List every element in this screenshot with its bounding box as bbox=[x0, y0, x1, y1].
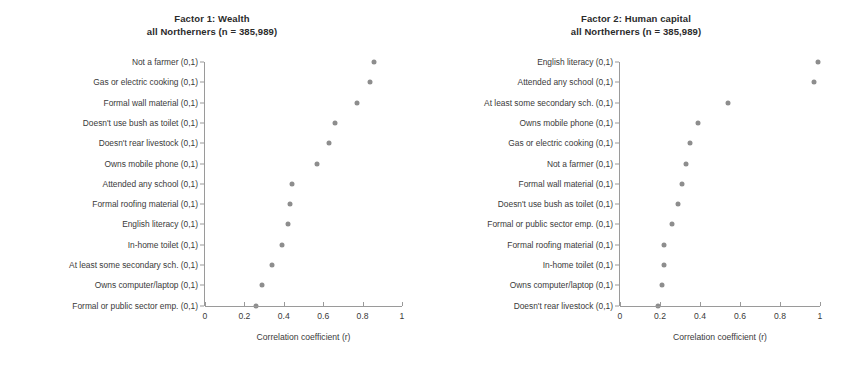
data-point bbox=[279, 242, 284, 247]
x-axis-tick-label: 0 bbox=[618, 311, 623, 321]
y-axis-tick-label: English literacy (0,1) bbox=[122, 219, 198, 229]
data-point bbox=[660, 283, 665, 288]
y-axis-tick-label: Gas or electric cooking (0,1) bbox=[508, 138, 613, 148]
y-axis-tick-label: English literacy (0,1) bbox=[537, 57, 613, 67]
y-axis-tick-label: Not a farmer (0,1) bbox=[547, 159, 613, 169]
data-point bbox=[688, 141, 693, 146]
data-point bbox=[285, 222, 290, 227]
plot-wrapper: Not a farmer (0,1)Gas or electric cookin… bbox=[0, 48, 424, 366]
y-axis-tick-mark bbox=[615, 163, 619, 164]
x-axis-tick-mark bbox=[205, 302, 206, 306]
y-axis-tick-mark bbox=[200, 143, 204, 144]
y-axis-tick-mark bbox=[200, 183, 204, 184]
x-axis-tick-label: 0.4 bbox=[694, 311, 706, 321]
x-axis-tick-mark bbox=[284, 302, 285, 306]
data-point bbox=[816, 60, 821, 65]
y-axis-tick-label: Owns computer/laptop (0,1) bbox=[95, 280, 198, 290]
y-axis-tick-label: Doesn't rear livestock (0,1) bbox=[514, 301, 613, 311]
y-axis-tick-label: Doesn't rear livestock (0,1) bbox=[99, 138, 198, 148]
x-axis-tick-mark bbox=[700, 302, 701, 306]
y-axis-tick-label: At least some secondary sch. (0,1) bbox=[484, 98, 613, 108]
y-axis-tick-mark bbox=[200, 122, 204, 123]
y-axis-tick-label: Owns mobile phone (0,1) bbox=[104, 159, 198, 169]
data-point bbox=[680, 181, 685, 186]
y-axis-tick-mark bbox=[615, 204, 619, 205]
x-axis-tick-mark bbox=[660, 302, 661, 306]
panel-title-line-1: Factor 2: Human capital bbox=[424, 12, 848, 25]
panel-title-line-1: Factor 1: Wealth bbox=[0, 12, 424, 25]
x-axis-tick-mark bbox=[740, 302, 741, 306]
y-axis-tick-mark bbox=[615, 244, 619, 245]
x-axis-tick-label: 0.4 bbox=[278, 311, 290, 321]
data-point bbox=[812, 80, 817, 85]
y-axis-tick-mark bbox=[200, 285, 204, 286]
data-point bbox=[662, 263, 667, 268]
x-axis-title: Correlation coefficient (r) bbox=[673, 332, 767, 342]
y-axis-tick-mark bbox=[615, 62, 619, 63]
x-axis-tick-label: 0.8 bbox=[774, 311, 786, 321]
y-axis-tick-label: Owns computer/laptop (0,1) bbox=[510, 280, 613, 290]
y-axis-tick-mark bbox=[200, 82, 204, 83]
y-axis-tick-mark bbox=[200, 224, 204, 225]
x-axis-tick-mark bbox=[780, 302, 781, 306]
y-axis-tick-label: At least some secondary sch. (0,1) bbox=[69, 260, 198, 270]
y-axis-tick-mark bbox=[615, 305, 619, 306]
y-axis-tick-mark bbox=[200, 265, 204, 266]
y-axis-tick-label: Formal roofing material (0,1) bbox=[92, 199, 198, 209]
panel-factor-1-wealth: Factor 1: Wealth all Northerners (n = 38… bbox=[0, 0, 424, 366]
data-point bbox=[260, 283, 265, 288]
x-axis-tick-label: 0.6 bbox=[734, 311, 746, 321]
data-point bbox=[269, 263, 274, 268]
data-point bbox=[368, 80, 373, 85]
x-axis-tick-mark bbox=[402, 302, 403, 306]
y-axis-tick-mark bbox=[615, 102, 619, 103]
data-point bbox=[354, 100, 359, 105]
data-point bbox=[676, 202, 681, 207]
data-point bbox=[726, 100, 731, 105]
x-axis-tick-label: 0 bbox=[203, 311, 208, 321]
y-axis-tick-mark bbox=[200, 102, 204, 103]
x-axis-tick-label: 1 bbox=[818, 311, 823, 321]
x-axis-tick-mark bbox=[323, 302, 324, 306]
y-axis-tick-mark bbox=[200, 305, 204, 306]
y-axis-tick-mark bbox=[200, 62, 204, 63]
data-point bbox=[684, 161, 689, 166]
x-axis-tick-label: 0.2 bbox=[654, 311, 666, 321]
panel-title: Factor 2: Human capital all Northerners … bbox=[424, 12, 848, 38]
y-axis-tick-label: Not a farmer (0,1) bbox=[132, 57, 198, 67]
y-axis-tick-mark bbox=[615, 183, 619, 184]
data-point bbox=[696, 120, 701, 125]
y-axis-tick-label: Formal or public sector emp. (0,1) bbox=[72, 301, 198, 311]
data-point bbox=[333, 120, 338, 125]
y-axis-tick-label: Gas or electric cooking (0,1) bbox=[93, 77, 198, 87]
y-axis-tick-mark bbox=[615, 143, 619, 144]
data-point bbox=[315, 161, 320, 166]
y-axis-tick-label: Formal or public sector emp. (0,1) bbox=[487, 219, 613, 229]
x-axis-tick-label: 0.2 bbox=[238, 311, 250, 321]
y-axis-tick-label: Doesn't use bush as toilet (0,1) bbox=[498, 199, 613, 209]
y-axis-tick-mark bbox=[200, 204, 204, 205]
x-axis-tick-mark bbox=[363, 302, 364, 306]
x-axis-tick-mark bbox=[820, 302, 821, 306]
data-point bbox=[670, 222, 675, 227]
y-axis-labels: Not a farmer (0,1)Gas or electric cookin… bbox=[0, 48, 198, 300]
panel-title-line-2: all Northerners (n = 385,989) bbox=[424, 25, 848, 38]
x-axis-tick-mark bbox=[244, 302, 245, 306]
x-axis-tick-label: 0.8 bbox=[357, 311, 369, 321]
x-axis-line bbox=[205, 306, 402, 307]
plot-wrapper: English literacy (0,1)Attended any schoo… bbox=[424, 48, 848, 366]
figure-two-panel-scatter: Factor 1: Wealth all Northerners (n = 38… bbox=[0, 0, 848, 366]
data-point bbox=[327, 141, 332, 146]
y-axis-tick-label: Doesn't use bush as toilet (0,1) bbox=[83, 118, 198, 128]
y-axis-tick-label: Owns mobile phone (0,1) bbox=[519, 118, 613, 128]
y-axis-tick-label: Attended any school (0,1) bbox=[103, 179, 198, 189]
x-axis-tick-label: 0.6 bbox=[317, 311, 329, 321]
data-point bbox=[662, 242, 667, 247]
data-point bbox=[372, 60, 377, 65]
y-axis-tick-label: In-home toilet (0,1) bbox=[128, 240, 198, 250]
x-axis-tick-mark bbox=[620, 302, 621, 306]
y-axis-tick-mark bbox=[200, 163, 204, 164]
y-axis-tick-label: Formal wall material (0,1) bbox=[519, 179, 613, 189]
y-axis-tick-label: Formal roofing material (0,1) bbox=[507, 240, 613, 250]
y-axis-tick-label: Formal wall material (0,1) bbox=[104, 98, 198, 108]
